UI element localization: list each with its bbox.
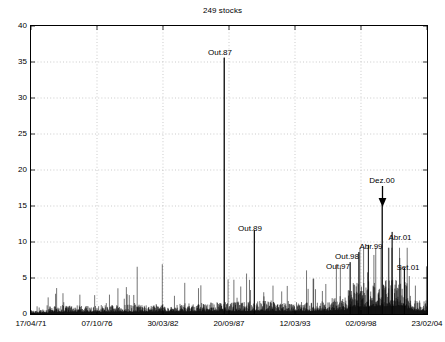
- annotation-dez-00: Dez.00: [369, 176, 394, 185]
- annotation-out-87: Out.87: [208, 48, 232, 57]
- annotation-set-01: Set.01: [396, 263, 419, 272]
- x-tick-label: 02/09/98: [331, 319, 391, 328]
- x-tick-label: 07/10/76: [67, 319, 127, 328]
- y-axis-tick-labels: 0510152025303540: [0, 0, 27, 342]
- y-tick-label: 20: [3, 166, 27, 174]
- y-tick-label: 40: [3, 22, 27, 30]
- chart-title: 249 stocks: [0, 6, 445, 15]
- gridlines: [31, 26, 427, 314]
- y-tick-label: 35: [3, 58, 27, 66]
- x-tick-label: 30/03/82: [133, 319, 193, 328]
- impulse-series: [31, 58, 427, 314]
- y-tick-label: 25: [3, 130, 27, 138]
- x-tick-label: 17/04/71: [1, 319, 61, 328]
- y-tick-label: 5: [3, 274, 27, 282]
- y-tick-label: 15: [3, 202, 27, 210]
- chart-figure: 249 stocks 0510152025303540 Out.87Out.89…: [0, 0, 445, 342]
- y-tick-label: 10: [3, 238, 27, 246]
- annotation-out-97: Out.97: [326, 262, 350, 271]
- annotation-abr-01: Abr.01: [388, 233, 411, 242]
- x-tick-label: 23/02/04: [397, 319, 445, 328]
- annotation-abr-99: Abr.99: [359, 242, 382, 251]
- annotation-out-89: Out.89: [238, 224, 262, 233]
- series-plot: [31, 26, 427, 314]
- annotation-out-98: Out.98: [335, 252, 359, 261]
- y-tick-label: 0: [3, 310, 27, 318]
- x-tick-label: 20/09/87: [199, 319, 259, 328]
- plot-area: [30, 25, 428, 315]
- annotation-arrow-dez-00: [378, 186, 387, 208]
- y-tick-label: 30: [3, 94, 27, 102]
- x-tick-label: 12/03/93: [265, 319, 325, 328]
